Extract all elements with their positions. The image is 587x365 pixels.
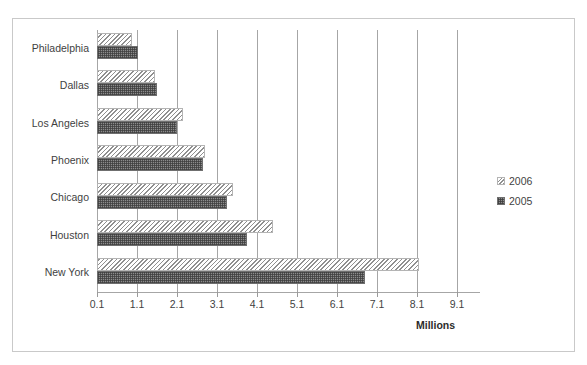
bar-2006[interactable] [97,33,132,46]
x-axis-tick-label: 9.1 [437,298,477,310]
bar-2005[interactable] [97,121,177,134]
bar-group [97,217,472,254]
x-axis-tick-label: 8.1 [397,298,437,310]
bar-group [97,105,472,142]
bar-group [97,180,472,217]
plot-area [97,30,472,292]
x-axis-tick-label: 0.1 [77,298,117,310]
x-axis-tickmark [137,292,138,297]
y-axis-category-label: Los Angeles [32,117,89,129]
bar-2006[interactable] [97,220,273,233]
x-axis-tick-label: 3.1 [197,298,237,310]
bar-group [97,67,472,104]
legend-swatch-2006-icon [497,177,505,185]
bar-2005[interactable] [97,158,203,171]
legend-swatch-2005-icon [497,197,505,205]
x-axis-tick-label: 7.1 [357,298,397,310]
bar-2005[interactable] [97,233,247,246]
x-axis-tick-label: 4.1 [237,298,277,310]
x-axis-tickmark [217,292,218,297]
x-axis-tick-label: 5.1 [277,298,317,310]
bar-group [97,255,472,292]
bar-2006[interactable] [97,70,155,83]
x-axis-tickmark [417,292,418,297]
y-axis-category-label: Chicago [50,191,89,203]
x-axis-tickmark [97,292,98,297]
bar-2005[interactable] [97,46,138,59]
bar-2006[interactable] [97,183,233,196]
legend-item-2006[interactable]: 2006 [497,171,559,191]
bar-group [97,30,472,67]
cut-off-title-text [6,0,306,3]
x-axis-tick-label: 1.1 [117,298,157,310]
y-axis-category-label: Dallas [60,79,89,91]
x-axis-tickmark [177,292,178,297]
y-axis-category-label: Houston [50,229,89,241]
bar-group [97,142,472,179]
bar-2006[interactable] [97,258,419,271]
bar-2005[interactable] [97,196,227,209]
x-axis-tickmark [457,292,458,297]
y-axis-category-label: Philadelphia [32,42,89,54]
x-axis-title: Millions [416,319,455,331]
x-axis-tickmark [377,292,378,297]
legend-item-2005[interactable]: 2005 [497,191,559,211]
x-axis-tick-label: 6.1 [317,298,357,310]
x-axis-tickmark [297,292,298,297]
bar-2006[interactable] [97,145,205,158]
bar-2006[interactable] [97,108,183,121]
x-axis-tick-label: 2.1 [157,298,197,310]
y-axis-category-label: New York [45,266,89,278]
x-axis-tickmark [257,292,258,297]
chart-legend: 2006 2005 [497,171,559,211]
x-axis-tickmark [337,292,338,297]
y-axis-labels-group: PhiladelphiaDallasLos AngelesPhoenixChic… [0,30,89,292]
bar-2005[interactable] [97,271,365,284]
x-axis-line [97,292,480,293]
legend-label-2005: 2005 [509,195,532,207]
y-axis-category-label: Phoenix [51,154,89,166]
legend-label-2006: 2006 [509,175,532,187]
bar-2005[interactable] [97,83,157,96]
